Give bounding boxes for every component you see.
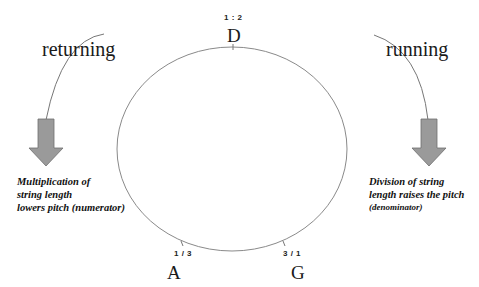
caption-left-line-3: lowers pitch (numerator) — [17, 201, 125, 214]
ratio-d: 1 : 2 — [224, 14, 243, 22]
caption-multiplication: Multiplication of string length lowers p… — [17, 175, 125, 214]
ratio-a: 1 / 3 — [174, 250, 192, 258]
caption-left-line-2: string length — [17, 188, 125, 201]
caption-left-line-1: Multiplication of — [17, 175, 125, 188]
tick-a — [181, 241, 183, 246]
arrow-down-icon-right — [412, 119, 446, 166]
caption-division: Division of string length raises the pit… — [369, 175, 464, 214]
note-d: D — [227, 26, 241, 45]
ratio-g: 3 / 1 — [283, 250, 301, 258]
arrow-down-icon-left — [29, 119, 63, 166]
caption-right-line-1: Division of string — [369, 175, 464, 188]
running-label: running — [386, 39, 448, 59]
caption-right-line-3: (denominator) — [369, 201, 464, 214]
tick-g — [283, 241, 285, 246]
note-a: A — [167, 263, 181, 282]
pitch-circle — [117, 47, 347, 251]
caption-right-line-2: length raises the pitch — [369, 188, 464, 201]
returning-label: returning — [42, 39, 115, 59]
note-g: G — [291, 263, 305, 282]
